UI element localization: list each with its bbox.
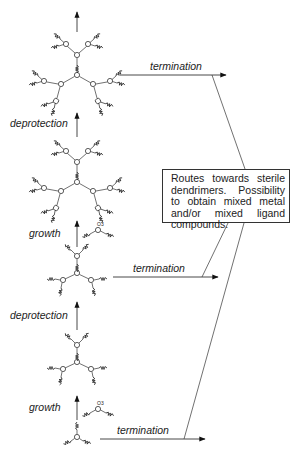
svg-text:O3: O3 — [97, 221, 104, 227]
connector-line-2 — [202, 223, 228, 277]
note-box: Routes towards sterile dendrimers. Possi… — [162, 169, 290, 223]
growth-label-1: growth — [29, 227, 61, 239]
deprotection-label-1: deprotection — [10, 117, 68, 129]
dendrimer-gen1-protected — [47, 332, 107, 385]
growth-reagent-2: O3 — [82, 400, 114, 417]
svg-text:O3: O3 — [97, 400, 104, 406]
growth-reagent-1: O3 — [82, 221, 114, 238]
termination-label-1: termination — [150, 60, 202, 72]
connector-line-1 — [212, 75, 245, 169]
note-line-5: compounds. — [171, 219, 285, 231]
deprotection-label-2: deprotection — [10, 309, 68, 321]
connector-line-3 — [184, 223, 244, 439]
termination-label-3: termination — [117, 424, 169, 436]
growth-label-2: growth — [29, 401, 61, 413]
note-line-3: to obtain mixed metal — [171, 196, 285, 208]
core-molecule — [63, 422, 91, 445]
dendrimer-gen2-protected — [29, 140, 125, 224]
dendrimer-gen1-deprotected — [47, 243, 107, 296]
dendrimer-gen2-deprotected — [29, 33, 125, 117]
note-line-1: Routes towards sterile — [171, 173, 285, 185]
termination-label-2: termination — [133, 262, 185, 274]
